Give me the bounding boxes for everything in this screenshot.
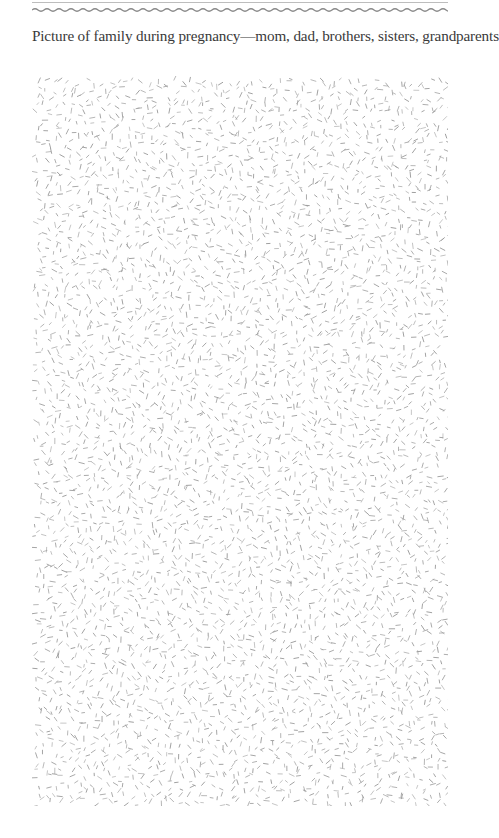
wavy-divider: [32, 6, 448, 14]
top-rule: [32, 2, 448, 3]
photo-caption: Picture of family during pregnancy—mom, …: [32, 27, 472, 45]
photo-placeholder-box[interactable]: [32, 76, 448, 806]
sprinkle-texture: [32, 76, 448, 806]
